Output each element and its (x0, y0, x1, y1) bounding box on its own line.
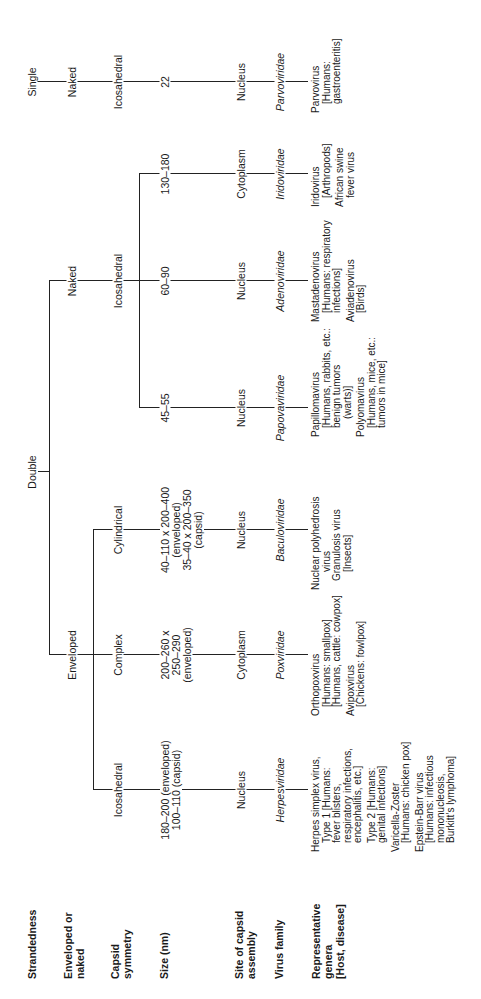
row-label-text: assembly (245, 911, 257, 979)
node-site-adeno: Nucleus (236, 257, 247, 305)
size-text: (capsid) (193, 487, 204, 573)
row-label-family: Virus family (273, 920, 285, 979)
genera-line: encephalitis, etc.] (353, 742, 364, 852)
node-size-parvo: 22 (160, 71, 171, 93)
row-label-text: genera (322, 904, 334, 979)
node-capsid-icosahedral-naked: Icosahedral (113, 249, 124, 313)
row-label-text: Enveloped or (62, 912, 74, 979)
row-label-text: Capsid (109, 929, 121, 979)
genera-line: African swine (335, 144, 346, 207)
genera-line: Herpes simplex virus, (311, 742, 322, 852)
genera-line: infections] (332, 220, 343, 322)
node-family-poxviridae: Poxviridae (275, 625, 286, 684)
row-label-text: Size (nm) (158, 932, 170, 979)
row-label-text: naked (74, 912, 86, 979)
node-family-parvoviridae: Parvoviridae (275, 48, 286, 116)
node-naked: Naked (67, 261, 78, 301)
node-double: Double (27, 450, 38, 493)
genera-line: (warts)] (343, 328, 354, 437)
naked-size-bracket-line (139, 174, 140, 408)
genera-line: fever blisters, (332, 742, 343, 852)
row-label-size: Size (nm) (158, 932, 170, 979)
node-naked-single: Naked (67, 62, 78, 102)
node-capsid-cylindrical: Cylindrical (113, 501, 124, 559)
node-family-iridoviridae: Iridoviridae (275, 143, 286, 204)
genera-line: Mastadenovirus (311, 220, 322, 322)
node-size-herpes: 180–200 (enveloped) 100–110 (capsid) (160, 735, 182, 844)
size-text: 100–110 (capsid) (171, 740, 182, 839)
genera-line: [Insects] (343, 497, 354, 590)
genera-line: Papillomavirus (311, 328, 322, 437)
genera-line: Iridovirus (311, 144, 322, 207)
node-capsid-icosahedral-single: Icosahedral (113, 50, 124, 114)
genera-line: tumors in mice] (377, 328, 388, 437)
node-site-papova: Nucleus (236, 384, 247, 432)
node-family-herpesviridae: Herpesviridae (275, 753, 286, 828)
node-site-pox: Cytoplasm (236, 625, 247, 685)
genera-line: Nuclear polyhedrosis (311, 497, 322, 590)
genera-line: [Chickens: fowlpox] (356, 595, 367, 716)
row-label-text: Site of capsid (233, 911, 245, 979)
node-enveloped: Enveloped (67, 625, 78, 685)
genera-irido: Iridovirus[Arthropods]African swinefever… (311, 144, 356, 207)
double-bracket-line (49, 281, 50, 655)
node-site-baculo: Nucleus (236, 506, 247, 554)
row-label-text: Virus family (273, 920, 285, 979)
genera-baculo: Nuclear polyhedrosisvirusGranulosis viru… (311, 497, 353, 590)
node-site-irido: Cytoplasm (236, 144, 247, 204)
node-family-papovaviridae: Papovaviridae (275, 370, 286, 447)
node-size-papova: 45–55 (160, 388, 171, 427)
row-label-text: Strandedness (26, 910, 38, 979)
genera-line: [Humans: infectious (425, 742, 436, 852)
node-size-irido: 130–180 (160, 149, 171, 200)
genera-line: Parvovirus (311, 38, 322, 113)
row-label-capsid: Capsid symmetry (109, 929, 133, 979)
genera-pox: Orthopoxvirus[Humans: smallpox][Humans, … (311, 595, 367, 716)
genera-line: Orthopoxvirus (311, 595, 322, 716)
row-label-strandedness: Strandedness (26, 910, 38, 979)
row-label-genera: Representative genera [Host, disease] (310, 904, 346, 979)
node-family-baculoviridae: Baculoviridae (275, 493, 286, 566)
node-size-adeno: 60–90 (160, 261, 171, 300)
row-label-text: Representative (310, 904, 322, 979)
row-label-enveloped: Enveloped or naked (62, 912, 86, 979)
dna-virus-classification-diagram: Strandedness Enveloped or naked Capsid s… (0, 0, 481, 999)
node-site-herpes: Nucleus (236, 766, 247, 814)
genera-papova: Papillomavirus[Humans, rabbits, etc.:ben… (311, 328, 388, 437)
genera-line: Polyomavirus (356, 328, 367, 437)
genera-line: genital infections] (377, 742, 388, 852)
row-label-site: Site of capsid assembly (233, 911, 257, 979)
enveloped-bracket-line (93, 530, 94, 790)
genera-line: [Humans, cattle: cowpox] (332, 595, 343, 716)
node-capsid-complex: Complex (113, 629, 124, 680)
node-site-parvo: Nucleus (236, 58, 247, 106)
node-size-baculo: 40–110 x 200–400 (enveloped) 35–40 x 200… (160, 482, 204, 578)
genera-line: [Humans: chicken pox] (401, 742, 412, 852)
genera-herpes: Herpes simplex virus,Type 1 [Humans:feve… (311, 742, 457, 852)
genera-parvo: Parvovirus[Humans:gastroenteritis] (311, 38, 343, 113)
row-label-text: [Host, disease] (334, 904, 346, 979)
genera-line: benign tumors (332, 328, 343, 437)
row-label-text: symmetry (121, 929, 133, 979)
size-text: (enveloped) (182, 627, 193, 682)
node-capsid-icosahedral: Icosahedral (113, 758, 124, 822)
node-size-pox: 200–260 x 250–290 (enveloped) (160, 622, 193, 687)
genera-adeno: Mastadenovirus[Humans: respiratoryinfect… (311, 220, 367, 322)
genera-line: Granulosis virus (332, 497, 343, 590)
genera-line: [Birds] (356, 220, 367, 322)
genera-line: Burkitt’s lymphoma] (446, 742, 457, 852)
node-family-adenoviridae: Adenoviridae (275, 245, 286, 316)
genera-line: gastroenteritis] (332, 38, 343, 113)
genera-line: fever virus (346, 144, 357, 207)
node-single: Single (27, 62, 38, 101)
genera-line: [Arthropods] (322, 144, 333, 207)
